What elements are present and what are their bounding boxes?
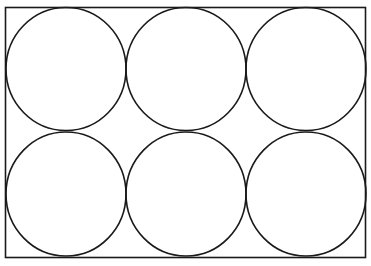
circle-2 (126, 8, 246, 131)
circles-in-rectangle-diagram (0, 0, 371, 266)
circle-4 (6, 132, 126, 256)
circle-1 (6, 8, 126, 131)
circle-6 (246, 132, 366, 256)
circle-3 (246, 8, 366, 131)
circle-5 (126, 132, 246, 256)
circle-grid (6, 8, 366, 257)
